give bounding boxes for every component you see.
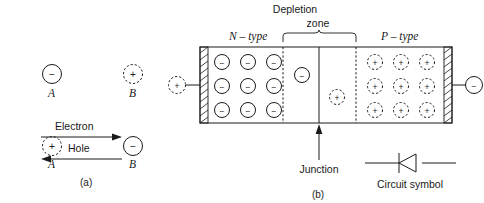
n-carrier: − (215, 55, 230, 70)
diode-circuit-symbol: Circuit symbol (365, 153, 456, 190)
particle-top-right-sign: + (130, 69, 136, 80)
hole-arrow-label: Hole (68, 142, 90, 154)
svg-text:−: − (272, 106, 277, 116)
depletion-label-line2: zone (307, 17, 330, 29)
particle-top-right: + B (124, 65, 143, 100)
diode-triangle (399, 154, 416, 172)
p-carrier: + (420, 79, 435, 94)
particle-bottom-right: − B (124, 137, 143, 171)
electron-arrow: Electron (41, 120, 122, 141)
svg-text:+: + (425, 82, 430, 92)
svg-text:−: − (272, 82, 277, 92)
svg-text:+: + (373, 82, 378, 92)
circuit-symbol-label: Circuit symbol (377, 178, 443, 190)
p-carrier: + (368, 55, 383, 70)
left-terminal-sign: + (175, 81, 180, 91)
n-carrier: − (215, 79, 230, 94)
svg-text:−: − (246, 106, 251, 116)
n-type-carrier-grid: − − − − − − − − − (215, 55, 282, 118)
p-carrier: + (394, 55, 409, 70)
panel-a-group: − A + B + A − B Electron (41, 65, 143, 189)
particle-bottom-left-sign: + (49, 141, 55, 152)
right-contact-hatch (444, 47, 452, 123)
depletion-hole-sign: + (335, 93, 340, 103)
p-carrier: + (394, 103, 409, 118)
svg-text:+: + (425, 106, 430, 116)
caption-a: (a) (80, 177, 92, 188)
n-type-label: N – type (228, 30, 267, 43)
n-carrier: − (267, 79, 282, 94)
depletion-electron-sign: − (300, 71, 305, 81)
semiconductor-block (200, 47, 452, 123)
svg-text:+: + (425, 58, 430, 68)
svg-text:−: − (246, 82, 251, 92)
svg-text:+: + (399, 58, 404, 68)
right-terminal: − (452, 77, 483, 94)
svg-text:−: − (220, 58, 225, 68)
p-carrier: + (368, 103, 383, 118)
particle-top-left-sign: − (49, 69, 55, 80)
svg-text:−: − (220, 82, 225, 92)
svg-text:+: + (373, 58, 378, 68)
caption-b: (b) (312, 189, 324, 200)
n-carrier: − (267, 55, 282, 70)
svg-text:+: + (399, 82, 404, 92)
particle-bottom-right-label: B (129, 158, 136, 170)
svg-text:−: − (272, 58, 277, 68)
n-carrier: − (215, 103, 230, 118)
panel-b-group: − − − − − − − − − + + + + + + + + + − (169, 3, 483, 200)
left-contact-hatch (200, 47, 208, 123)
n-carrier: − (241, 79, 256, 94)
svg-text:+: + (399, 106, 404, 116)
depletion-carrier-hole: + (330, 90, 345, 105)
right-terminal-sign: − (472, 81, 477, 91)
particle-top-left-label: A (47, 87, 56, 99)
p-carrier: + (368, 79, 383, 94)
svg-text:+: + (373, 106, 378, 116)
n-carrier: − (267, 103, 282, 118)
depletion-carrier-electron: − (295, 68, 310, 83)
junction-callout: Junction (299, 124, 338, 175)
particle-top-left: − A (43, 65, 62, 100)
electron-arrow-label: Electron (55, 120, 94, 132)
particle-bottom-left: + A (43, 137, 62, 171)
svg-text:−: − (246, 58, 251, 68)
particle-top-right-label: B (129, 87, 136, 99)
particle-bottom-right-sign: − (130, 141, 136, 152)
p-carrier: + (420, 55, 435, 70)
depletion-brace (283, 30, 356, 42)
left-terminal: + (169, 77, 201, 94)
p-carrier: + (394, 79, 409, 94)
pn-junction-figure: − A + B + A − B Electron (0, 0, 484, 203)
n-carrier: − (241, 103, 256, 118)
svg-text:−: − (220, 106, 225, 116)
junction-label: Junction (299, 163, 338, 175)
p-type-carrier-grid: + + + + + + + + + (368, 55, 435, 118)
n-carrier: − (241, 55, 256, 70)
p-carrier: + (420, 103, 435, 118)
figure-root: − A + B + A − B Electron (0, 0, 484, 203)
depletion-label-line1: Depletion (273, 3, 318, 15)
p-type-label: P – type (380, 30, 418, 43)
